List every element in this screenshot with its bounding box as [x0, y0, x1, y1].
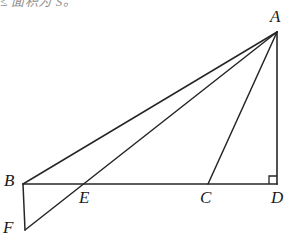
geometry-diagram-svg	[0, 0, 299, 245]
right-angle-marker-D	[269, 176, 277, 184]
geometry-figure: ≤ 面积为 S。 A B E C D F	[0, 0, 299, 245]
vertex-label-F: F	[3, 219, 13, 236]
segment-BF	[23, 184, 25, 230]
vertex-label-B: B	[4, 172, 14, 189]
vertex-label-D: D	[271, 189, 283, 206]
vertex-label-A: A	[270, 8, 280, 25]
segment-AC	[208, 32, 277, 184]
segment-AF	[25, 32, 277, 230]
vertex-label-E: E	[79, 189, 89, 206]
vertex-label-C: C	[200, 189, 211, 206]
segment-AB	[23, 32, 277, 184]
